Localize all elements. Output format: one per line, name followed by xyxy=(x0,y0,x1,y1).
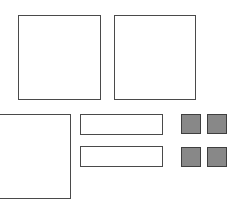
diagram-canvas xyxy=(0,0,236,206)
tile-1 xyxy=(181,114,201,134)
tile-4 xyxy=(207,147,227,167)
top-left-square xyxy=(18,15,101,100)
top-right-square xyxy=(114,15,196,100)
bar-top xyxy=(80,114,163,135)
bar-bottom xyxy=(80,146,163,167)
bottom-left-square xyxy=(0,114,71,199)
tile-2 xyxy=(207,114,227,134)
tile-3 xyxy=(181,147,201,167)
